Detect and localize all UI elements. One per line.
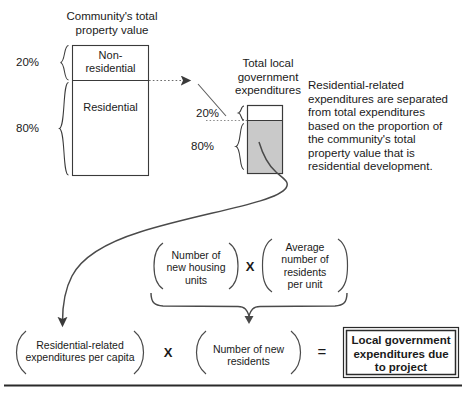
expenditure-pct-residential: 80%	[191, 140, 233, 154]
expenditures-title: Total local government expenditures	[222, 57, 314, 98]
property-brace-nonresidential	[61, 46, 69, 81]
expenditure-pct-nonresidential: 20%	[196, 107, 236, 121]
term-residents-per-unit: Average number of residents per unit	[270, 241, 340, 291]
segment-residential-label: Residential	[74, 101, 147, 114]
property-brace-residential	[60, 83, 69, 176]
operator-multiply-bottom: X	[156, 345, 180, 360]
term-number-of-new-residents: Number of new residents	[205, 343, 292, 368]
segment-nonresidential-label: Non- residential	[74, 49, 147, 75]
term-expenditures-per-capita: Residential-related expenditures per cap…	[22, 339, 138, 364]
property-value-title: Community's total property value	[52, 10, 172, 37]
operator-multiply-top: X	[238, 259, 262, 274]
property-pct-nonresidential: 20%	[16, 56, 58, 70]
term-new-housing-units: Number of new housing units	[160, 249, 232, 286]
fiscal-impact-diagram: Community's total property value Total l…	[0, 0, 472, 397]
expenditure-brace-top	[239, 106, 245, 120]
expenditure-box	[248, 106, 283, 174]
property-pct-residential: 80%	[16, 122, 58, 136]
brace-product-to-new-residents	[151, 293, 347, 324]
result-label: Local government expenditures due to pro…	[348, 334, 454, 375]
explanation-note: Residential-related expenditures are sep…	[308, 79, 468, 174]
expenditure-brace-bottom	[236, 124, 244, 170]
operator-equals: =	[310, 343, 334, 361]
